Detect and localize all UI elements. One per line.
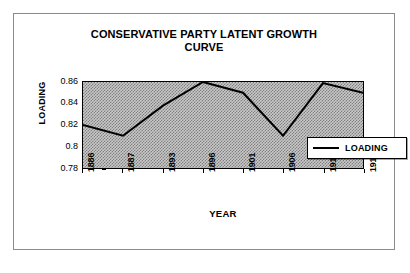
x-tick-mark-1887 <box>122 169 123 173</box>
chart-frame: CONSERVATIVE PARTY LATENT GROWTH CURVE L… <box>13 13 395 250</box>
y-axis-ticks: 0.86 0.84 0.82 0.8 0.78 <box>38 14 78 273</box>
y-tick-label-1: 0.84 <box>42 98 78 107</box>
x-tick-label-1887: 1887 <box>126 153 136 172</box>
x-tick-label-1886: 1886 <box>86 153 96 172</box>
x-tick-mark-1896 <box>203 169 204 173</box>
legend-line-swatch-icon <box>313 147 339 149</box>
x-tick-label-1906: 1906 <box>287 153 297 172</box>
x-tick-label-1901: 1901 <box>247 153 257 172</box>
x-tick-label-1893: 1893 <box>167 153 177 172</box>
x-tick-mark-1893 <box>163 169 164 173</box>
x-tick-mark-1906 <box>283 169 284 173</box>
x-tick-mark-1910 <box>324 169 325 173</box>
y-tick-mark-4 <box>102 169 106 170</box>
y-tick-label-0: 0.86 <box>42 77 78 86</box>
x-tick-mark-1911 <box>364 169 365 173</box>
x-tick-label-1896: 1896 <box>207 153 217 172</box>
chart-legend: LOADING <box>307 137 407 159</box>
x-axis-title: YEAR <box>82 208 364 219</box>
x-tick-mark-1901 <box>243 169 244 173</box>
y-tick-label-4: 0.78 <box>42 164 78 173</box>
y-tick-label-2: 0.82 <box>42 120 78 129</box>
legend-label-loading: LOADING <box>345 143 388 153</box>
y-tick-label-3: 0.8 <box>42 142 78 151</box>
x-tick-mark-1886 <box>82 169 83 173</box>
